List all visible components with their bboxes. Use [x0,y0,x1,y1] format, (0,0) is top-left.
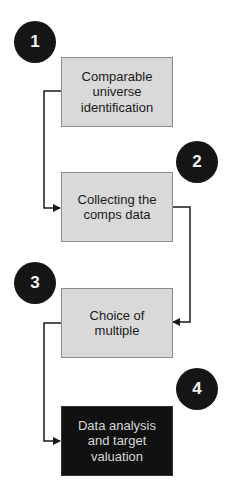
process-diagram: 1 Comparable universe identification 2 C… [0,0,230,503]
step-2-number: 2 [192,152,201,172]
step-3-label: Choice of multiple [77,308,157,339]
step-2-badge: 2 [176,141,218,183]
step-2-label: Collecting the comps data [71,192,163,223]
step-4-box: Data analysis and target valuation [61,406,173,476]
connector-3-to-4 [44,323,61,441]
step-3-badge: 3 [14,262,56,304]
step-4-badge: 4 [176,368,218,410]
connector-2-to-3 [172,207,190,322]
step-2-box: Collecting the comps data [61,172,173,242]
step-4-number: 4 [192,379,201,399]
connector-1-to-2 [44,91,61,208]
step-1-number: 1 [30,32,39,52]
step-1-badge: 1 [14,21,56,63]
step-4-label: Data analysis and target valuation [72,418,162,465]
step-3-number: 3 [30,273,39,293]
step-1-box: Comparable universe identification [61,57,173,127]
step-1-label: Comparable universe identification [71,69,163,116]
step-3-box: Choice of multiple [61,288,173,358]
